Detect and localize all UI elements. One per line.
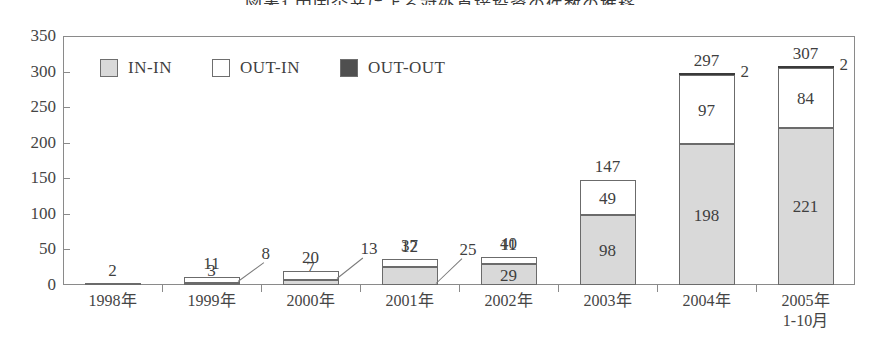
y-tick-mark [63, 143, 70, 144]
segment-value-label: 49 [581, 189, 635, 209]
bar-segment-out-in[interactable]: 49 [580, 180, 636, 215]
bar-total-label: 147 [558, 157, 658, 177]
segment-value-label: 29 [482, 266, 536, 286]
bar-segment-in-in[interactable] [85, 283, 141, 285]
bar-stack[interactable]: 19897 [679, 36, 735, 285]
bar-segment-in-in[interactable]: 198 [679, 144, 735, 285]
bar-stack[interactable] [85, 36, 141, 285]
bar-segment-out-in[interactable] [481, 257, 537, 265]
bar-segment-in-in[interactable]: 98 [580, 215, 636, 285]
chart-container: 図表1 中国企業による対外直接投資の件数の推移 3503002502001501… [0, 0, 881, 362]
callout-leader-line [435, 258, 462, 284]
segment-value-label: 97 [680, 101, 734, 121]
bar-total-label: 40 [459, 234, 559, 254]
y-tick-mark [63, 249, 70, 250]
bar-segment-in-in[interactable] [382, 267, 438, 285]
bar-total-label: 20 [261, 248, 361, 268]
bar-segment-in-in[interactable]: 221 [778, 128, 834, 285]
bar-segment-out-in[interactable] [283, 271, 339, 280]
bar-segment-out-in[interactable] [184, 277, 240, 283]
bar-segment-in-in[interactable] [184, 283, 240, 285]
y-tick-mark [63, 72, 70, 73]
bar-segment-out-in[interactable] [382, 259, 438, 268]
bar-total-label: 2 [63, 261, 163, 281]
y-tick-mark [63, 107, 70, 108]
bar-stack[interactable]: 22184 [778, 36, 834, 285]
bar-segment-out-out[interactable] [778, 66, 834, 68]
y-tick-mark [63, 214, 70, 215]
segment-value-label: 98 [581, 241, 635, 261]
bar-segment-in-in[interactable]: 29 [481, 264, 537, 285]
segment-value-label: 198 [680, 206, 734, 226]
bar-total-label: 11 [162, 254, 262, 274]
segment-value-label: 84 [779, 89, 833, 109]
callout-value-label: 2 [840, 55, 849, 75]
bar-total-label: 37 [360, 236, 460, 256]
callout-value-label: 2 [741, 62, 750, 82]
bars-layer: 2311872013123725112940984914719897297222… [0, 0, 881, 362]
bar-segment-out-out[interactable] [679, 73, 735, 75]
bar-segment-out-in[interactable]: 84 [778, 68, 834, 128]
segment-value-label: 221 [779, 197, 833, 217]
y-tick-mark [63, 178, 70, 179]
bar-segment-out-in[interactable]: 97 [679, 75, 735, 144]
bar-segment-in-in[interactable] [283, 280, 339, 285]
bar-stack[interactable] [184, 36, 240, 285]
